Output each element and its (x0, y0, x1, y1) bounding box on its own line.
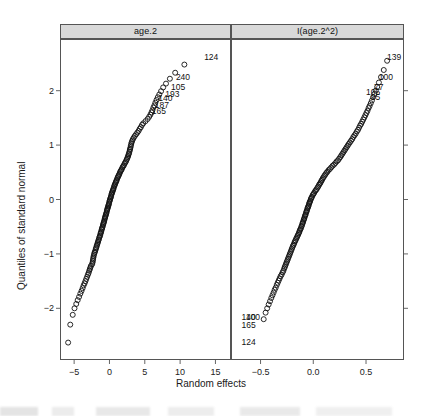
outlier-point-label: 165 (242, 321, 256, 330)
y-axis-tick-label: 1 (40, 140, 54, 150)
x-axis-title: Random effects (0, 378, 422, 389)
data-point (261, 317, 266, 322)
data-point (70, 312, 75, 317)
outlier-point-label: 100 (379, 73, 393, 82)
x-axis-tick-label: 5 (142, 367, 147, 377)
outlier-point-label: 95 (371, 93, 380, 102)
data-point (268, 299, 273, 304)
data-point (66, 340, 71, 345)
data-point (163, 81, 168, 86)
y-axis-tick-label: −2 (40, 303, 54, 313)
data-point (167, 76, 172, 81)
data-points-layer (0, 0, 422, 416)
y-axis-tick-label: −1 (40, 249, 54, 259)
x-axis-tick-label: 10 (175, 367, 185, 377)
x-axis-tick-label: −5 (69, 367, 79, 377)
x-axis-tick-label: 0.0 (307, 367, 320, 377)
data-point (182, 62, 187, 67)
outlier-point-label: 124 (242, 338, 256, 347)
data-point (68, 322, 73, 327)
x-axis-tick-label: −0.5 (252, 367, 270, 377)
outlier-point-label: 139 (387, 53, 401, 62)
qq-plot-figure: age.2 I(age.2^2) −5051015−2−1012−0.50.00… (0, 0, 422, 416)
y-axis-tick-label: 2 (40, 86, 54, 96)
outlier-point-label: 124 (204, 53, 218, 62)
outlier-point-label: 240 (176, 73, 190, 82)
y-axis-tick-label: 0 (40, 195, 54, 205)
x-axis-tick-label: 0 (107, 367, 112, 377)
outlier-point-label: 165 (152, 107, 166, 116)
x-axis-tick-label: 15 (210, 367, 220, 377)
y-axis-title: Quantiles of standard normal (16, 162, 27, 290)
x-axis-tick-label: 0.5 (360, 367, 373, 377)
